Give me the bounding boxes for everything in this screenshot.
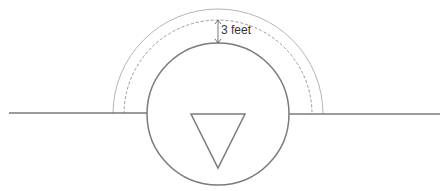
diagram-canvas: 3 feet xyxy=(0,0,445,191)
dimension-label: 3 feet xyxy=(221,24,251,36)
